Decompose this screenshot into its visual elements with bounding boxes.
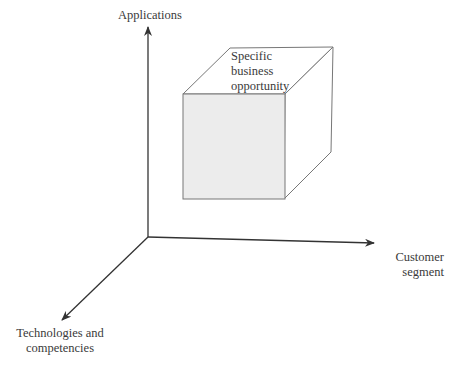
horizontal-axis-customer-segment (148, 237, 374, 243)
vertical-axis-label: Applications (110, 8, 190, 23)
diagram-canvas (0, 0, 458, 369)
technologies-label: Technologies and (5, 326, 115, 341)
diagonal-axis-technologies (62, 237, 148, 320)
cube-label-line-3: opportunity (231, 79, 289, 94)
segment-label: segment (360, 265, 444, 280)
horizontal-axis-label: Customer segment (360, 250, 444, 280)
competencies-label: competencies (5, 341, 115, 356)
cube-label: Specific business opportunity (231, 49, 289, 94)
cube-label-line-2: business (231, 64, 289, 79)
diagonal-axis-label: Technologies and competencies (5, 326, 115, 356)
cube-label-line-1: Specific (231, 49, 289, 64)
customer-label: Customer (360, 250, 444, 265)
cube-front-face (183, 94, 285, 199)
applications-label: Applications (118, 8, 182, 22)
